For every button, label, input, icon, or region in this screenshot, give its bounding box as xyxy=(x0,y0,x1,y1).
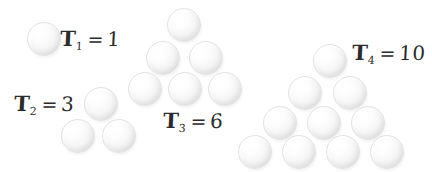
label-value: 10 xyxy=(398,41,426,65)
label-subscript: 4 xyxy=(367,54,377,67)
ball xyxy=(238,135,272,169)
ball xyxy=(288,76,322,110)
triangular-numbers-figure: T1=1T2=3T3=6T4=10 xyxy=(0,0,432,173)
ball xyxy=(313,44,347,78)
ball xyxy=(307,106,341,140)
ball xyxy=(282,135,316,169)
label-t4: T4=10 xyxy=(351,40,426,67)
ball xyxy=(326,135,360,169)
label-equals: = xyxy=(377,42,400,64)
ball xyxy=(351,106,385,140)
group-t4: T4=10 xyxy=(0,0,432,173)
label-symbol: T xyxy=(351,40,368,65)
ball xyxy=(263,106,297,140)
ball xyxy=(370,135,404,169)
ball xyxy=(333,76,367,110)
